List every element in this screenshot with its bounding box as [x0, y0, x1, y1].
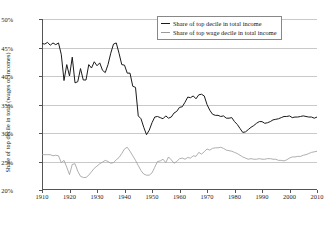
x-tick-mark	[262, 190, 263, 193]
y-tick-mark	[39, 162, 42, 163]
x-tick-label: 1970	[192, 193, 222, 200]
legend-label: Share of top decile in total income	[173, 20, 261, 27]
y-tick-mark	[39, 105, 42, 106]
series-line-1	[42, 42, 317, 134]
y-tick-mark	[39, 76, 42, 77]
y-tick-label: 20%	[0, 187, 13, 194]
y-tick-label: 45%	[0, 44, 13, 51]
y-tick-label: 35%	[0, 101, 13, 108]
y-tick-label: 40%	[0, 73, 13, 80]
legend-swatch-icon	[161, 32, 170, 33]
chart-figure: Share of top decile in total (wages or i…	[0, 0, 332, 225]
y-tick-mark	[39, 133, 42, 134]
x-tick-mark	[317, 190, 318, 193]
series-line-2	[42, 147, 317, 177]
x-tick-mark	[70, 190, 71, 193]
x-tick-label: 1940	[110, 193, 140, 200]
x-tick-mark	[152, 190, 153, 193]
x-tick-mark	[207, 190, 208, 193]
legend-item[interactable]: Share of top wage decile in total income	[161, 28, 277, 37]
legend-label: Share of top wage decile in total income	[173, 29, 277, 36]
x-tick-mark	[180, 190, 181, 193]
series-layer	[42, 19, 317, 190]
x-tick-label: 1960	[165, 193, 195, 200]
y-tick-label: 30%	[0, 130, 13, 137]
x-tick-label: 2010	[302, 193, 332, 200]
y-tick-label: 25%	[0, 158, 13, 165]
x-tick-mark	[235, 190, 236, 193]
x-tick-label: 1950	[137, 193, 167, 200]
legend-item[interactable]: Share of top decile in total income	[161, 19, 277, 28]
y-tick-mark	[39, 48, 42, 49]
y-tick-label: 50%	[0, 16, 13, 23]
x-tick-label: 1980	[220, 193, 250, 200]
x-tick-mark	[125, 190, 126, 193]
x-tick-label: 1930	[82, 193, 112, 200]
x-tick-mark	[42, 190, 43, 193]
x-tick-label: 2000	[275, 193, 305, 200]
x-tick-mark	[97, 190, 98, 193]
x-tick-label: 1910	[27, 193, 57, 200]
y-tick-mark	[39, 19, 42, 20]
chart-legend: Share of top decile in total incomeShare…	[157, 16, 282, 40]
x-tick-mark	[290, 190, 291, 193]
x-tick-label: 1990	[247, 193, 277, 200]
x-tick-label: 1920	[55, 193, 85, 200]
legend-swatch-icon	[161, 23, 170, 24]
